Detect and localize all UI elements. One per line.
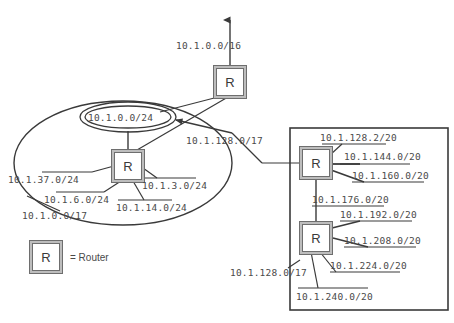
- router-glyph: R: [311, 232, 320, 245]
- right-lower-subnet-label-4: 10.1.240.0/20: [296, 292, 373, 302]
- core-subnet-label: 10.1.0.0/24: [88, 113, 153, 123]
- ur-spoke-1: [330, 144, 342, 155]
- left-subnet-label-3: 10.1.3.0/24: [142, 181, 207, 191]
- router-legend-symbol: R: [32, 243, 60, 271]
- router-right-upper[interactable]: R: [302, 149, 330, 177]
- left-domain-summary-label: 10.1.0.0/17: [22, 211, 87, 221]
- router-glyph: R: [123, 160, 132, 173]
- uplink-label: 10.1.0.0/16: [176, 41, 241, 51]
- router-glyph: R: [225, 76, 234, 89]
- right-upper-subnet-label-1: 10.1.128.2/20: [320, 133, 397, 143]
- right-link-subnet-label: 10.1.176.0/20: [312, 195, 389, 205]
- legend-router-text: = Router: [70, 253, 109, 263]
- left-spoke-3: [143, 168, 157, 178]
- right-upper-subnet-label-2: 10.1.144.0/20: [344, 152, 421, 162]
- left-subnet-label-1: 10.1.37.0/24: [8, 175, 79, 185]
- lr-spoke-4: [311, 252, 318, 288]
- right-lower-subnet-label-3: 10.1.224.0/20: [330, 261, 407, 271]
- left-spoke-2: [104, 181, 121, 192]
- router-glyph: R: [311, 157, 320, 170]
- right-domain-summary-label-bottom: 10.1.128.0/17: [230, 268, 307, 278]
- lr-spoke-1: [332, 221, 360, 228]
- right-domain-summary-label-top: 10.1.128.0/17: [186, 136, 263, 146]
- right-lower-subnet-label-2: 10.1.208.0/20: [344, 236, 421, 246]
- top-router-to-core: [160, 96, 222, 112]
- router-left-domain[interactable]: R: [114, 152, 142, 180]
- network-topology-diagram: R R R R R 10.1.0.0/16 10.1.0.0/24 10.1.3…: [0, 0, 454, 323]
- right-lower-subnet-label-1: 10.1.192.0/20: [340, 210, 417, 220]
- left-subnet-label-2: 10.1.6.0/24: [44, 195, 109, 205]
- left-subnet-label-4: 10.1.14.0/24: [116, 203, 187, 213]
- left-spoke-1: [92, 166, 114, 172]
- router-top[interactable]: R: [216, 68, 244, 96]
- router-right-lower[interactable]: R: [302, 224, 330, 252]
- right-upper-subnet-label-3: 10.1.160.0/20: [352, 171, 429, 181]
- router-glyph: R: [41, 251, 50, 264]
